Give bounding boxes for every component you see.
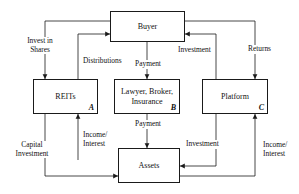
diagram-canvas: Buyer REITs A Lawyer, Broker, Insurance … (0, 0, 299, 194)
edge-label-invest-in-shares: Invest in Shares (15, 37, 65, 54)
node-platform-label: Platform (221, 92, 249, 102)
node-reits-label: REITs (55, 92, 75, 102)
node-assets-label: Assets (139, 161, 160, 171)
node-reits-tag: A (89, 103, 94, 112)
node-buyer[interactable]: Buyer (110, 11, 185, 42)
node-platform-tag: C (259, 103, 264, 112)
arrowhead-platform-to-buyer (185, 32, 190, 37)
arrowhead-assets-to-reits (76, 114, 81, 119)
node-assets[interactable]: Assets (118, 148, 180, 183)
node-lawyer-broker-insurance-tag: B (171, 103, 176, 112)
edge-label-income-interest-left: Income/ Interest (82, 131, 108, 148)
node-lawyer-broker-insurance[interactable]: Lawyer, Broker, Insurance B (114, 79, 180, 114)
arrowhead-assets-to-platform (253, 114, 258, 119)
edge-label-capital-investment: Capital Investment (4, 141, 60, 158)
node-buyer-label: Buyer (138, 22, 158, 32)
edge-label-distributions: Distributions (82, 57, 123, 66)
edge-label-returns: Returns (247, 45, 272, 54)
arrowhead-platform-to-assets (180, 164, 185, 169)
node-platform[interactable]: Platform C (202, 79, 268, 114)
edge-label-investment-top: Investment (177, 46, 212, 55)
edge-label-payment-bottom: Payment (126, 120, 170, 129)
node-reits[interactable]: REITs A (33, 79, 98, 114)
edge-platform-to-buyer (185, 34, 216, 79)
edge-label-payment-top: Payment (126, 60, 170, 69)
edge-label-investment-bottom: Investment (185, 140, 220, 149)
node-lawyer-broker-insurance-label: Lawyer, Broker, Insurance (121, 87, 173, 107)
edge-label-income-interest-right: Income/ Interest (262, 141, 288, 158)
